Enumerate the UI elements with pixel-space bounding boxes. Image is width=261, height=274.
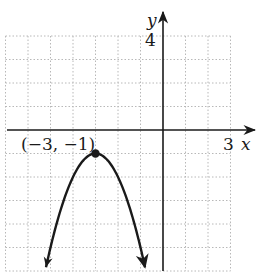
y-axis-label: y: [146, 10, 157, 30]
x-tick-label-3: 3: [223, 134, 234, 154]
x-axis-label: x: [241, 134, 251, 154]
y-tick-label-4: 4: [145, 30, 156, 50]
parabola-graph: y 4 3 x (−3, −1): [0, 0, 261, 274]
vertex-label: (−3, −1): [21, 134, 95, 154]
chart-container: y 4 3 x (−3, −1): [0, 0, 261, 274]
